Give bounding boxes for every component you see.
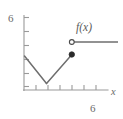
open-endpoint-dot xyxy=(69,40,74,45)
plot-canvas: 6 6 x f(x) xyxy=(0,0,123,119)
x-axis-name-label: x xyxy=(110,86,116,97)
function-name-label: f(x) xyxy=(76,21,92,34)
curve-decreasing-branch xyxy=(25,56,47,84)
curve-increasing-branch xyxy=(47,55,72,84)
function-graph-figure: 6 6 x f(x) xyxy=(0,0,123,119)
y-axis-max-label: 6 xyxy=(8,12,14,24)
x-axis-max-label: 6 xyxy=(90,102,96,114)
closed-endpoint-dot xyxy=(69,52,74,57)
